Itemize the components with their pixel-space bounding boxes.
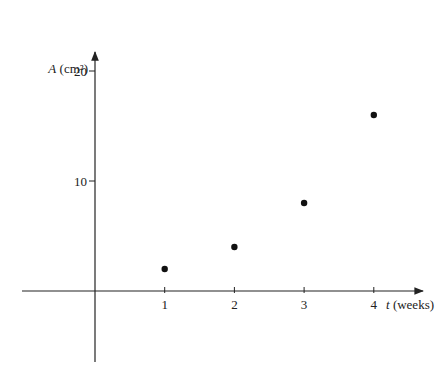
y-axis-variable: A: [47, 61, 56, 76]
data-point: [231, 244, 237, 250]
axis-labels: A (cm²)t (weeks): [47, 61, 434, 312]
y-tick-label: 10: [74, 174, 87, 189]
x-tick-label: 4: [371, 297, 378, 312]
x-axis-unit: (weeks): [390, 297, 434, 312]
data-points: [162, 112, 377, 272]
scatter-chart: 12341020 A (cm²)t (weeks): [0, 0, 447, 379]
x-tick-label: 1: [161, 297, 168, 312]
x-tick-label: 2: [231, 297, 238, 312]
data-point: [162, 266, 168, 272]
data-point: [301, 200, 307, 206]
x-axis-label: t (weeks): [386, 297, 434, 312]
data-point: [371, 112, 377, 118]
y-axis-unit: (cm²): [56, 61, 88, 76]
x-tick-label: 3: [301, 297, 308, 312]
y-axis-label: A (cm²): [47, 61, 88, 76]
ticks: 12341020: [74, 64, 378, 313]
axes: [22, 52, 423, 362]
